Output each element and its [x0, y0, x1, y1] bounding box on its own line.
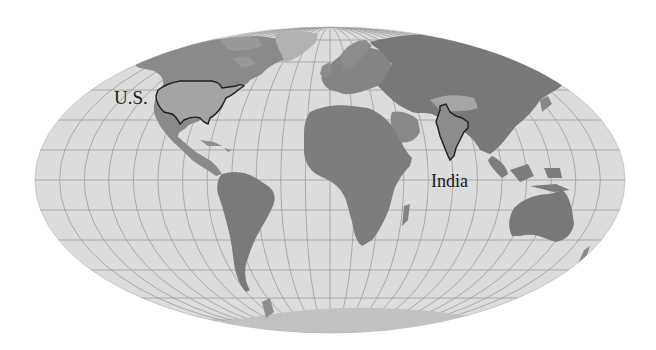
label-india: India	[431, 172, 468, 190]
mollweide-map	[0, 0, 656, 350]
label-us: U.S.	[114, 88, 148, 107]
world-map: U.S. India	[0, 0, 656, 350]
